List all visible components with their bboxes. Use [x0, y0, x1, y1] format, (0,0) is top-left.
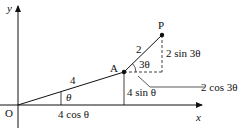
vertical-OA-label: 4 sin θ: [127, 86, 156, 98]
y-axis-label: y: [6, 2, 12, 14]
x-axis-label: x: [195, 111, 201, 123]
origin-label: O: [5, 107, 13, 119]
theta-label: θ: [66, 91, 72, 103]
point-A-label: A: [110, 62, 118, 74]
point-A: [122, 70, 126, 74]
horizontal-OA-label: 4 cos θ: [58, 108, 89, 120]
point-P: [160, 33, 164, 37]
point-P-label: P: [158, 19, 164, 31]
vertical-AP-label: 2 sin 3θ: [166, 47, 201, 59]
polar-vector-diagram: y x O A P 4 2 θ 3θ 4 cos θ 4 sin θ 2 sin…: [0, 0, 244, 130]
three-theta-arc: [133, 64, 137, 72]
three-theta-label: 3θ: [139, 58, 150, 70]
OA-length-label: 4: [70, 74, 76, 86]
horizontal-AP-label: 2 cos 3θ: [201, 81, 237, 93]
AP-length-label: 2: [136, 43, 142, 55]
